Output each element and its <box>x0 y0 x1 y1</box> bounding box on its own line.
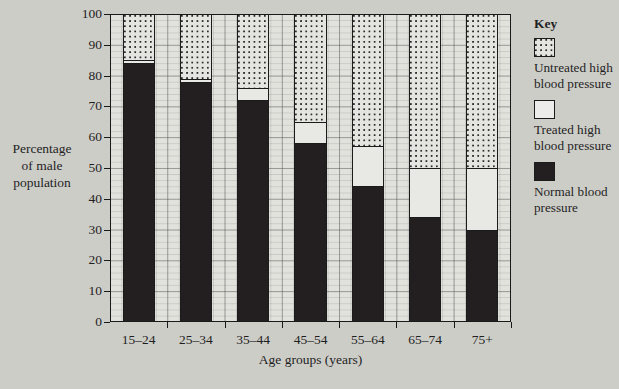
bar-65-74[interactable] <box>409 14 441 322</box>
segment-untreated <box>352 14 384 146</box>
y-tick-mark <box>104 76 110 77</box>
bar-25-34[interactable] <box>180 14 212 322</box>
y-tick-mark <box>104 14 110 15</box>
y-tick-label: 70 <box>89 98 103 114</box>
segment-treated <box>237 88 269 100</box>
y-tick-label: 10 <box>89 283 103 299</box>
segment-treated <box>294 122 326 144</box>
y-axis-title-line-3: population <box>4 174 80 191</box>
segment-normal <box>352 186 384 322</box>
white-swatch <box>534 100 555 119</box>
segment-untreated <box>294 14 326 122</box>
y-tick-label: 100 <box>82 6 102 22</box>
x-tick-label: 55–64 <box>351 332 385 348</box>
x-tick-mark <box>396 322 397 328</box>
segment-normal <box>294 143 326 322</box>
legend-items: Untreated high blood pressureTreated hig… <box>534 38 616 217</box>
stacked-bar-chart-figure: Percentage of male population 1009080706… <box>0 0 619 389</box>
y-tick-label: 60 <box>89 129 103 145</box>
x-tick-mark <box>339 322 340 328</box>
plot-area: 1009080706050403020100 15–2425–3435–4445… <box>110 14 511 322</box>
y-axis-title-line-2: of male <box>4 157 80 174</box>
segment-normal <box>409 217 441 322</box>
chart-legend: Key Untreated high blood pressureTreated… <box>534 16 616 224</box>
y-axis-title: Percentage of male population <box>4 140 80 191</box>
segment-untreated <box>237 14 269 88</box>
black-swatch <box>534 162 555 181</box>
y-tick-label: 0 <box>95 314 102 330</box>
y-tick-mark <box>104 230 110 231</box>
x-tick-label: 65–74 <box>408 332 442 348</box>
bar-35-44[interactable] <box>237 14 269 322</box>
segment-treated <box>352 146 384 186</box>
y-tick-mark <box>104 137 110 138</box>
y-tick-mark <box>104 260 110 261</box>
y-tick-label: 50 <box>89 160 103 176</box>
y-tick-mark <box>104 45 110 46</box>
x-tick-label: 35–44 <box>236 332 270 348</box>
y-tick-label: 40 <box>89 191 103 207</box>
x-tick-mark <box>225 322 226 328</box>
y-tick-label: 80 <box>89 68 103 84</box>
segment-normal <box>180 82 212 322</box>
y-tick-mark <box>104 322 110 323</box>
segment-treated <box>466 168 498 230</box>
segment-treated <box>123 60 155 63</box>
y-tick-mark <box>104 168 110 169</box>
segment-untreated <box>409 14 441 168</box>
x-tick-label: 25–34 <box>179 332 213 348</box>
y-tick-label: 30 <box>89 222 103 238</box>
legend-title: Key <box>534 16 616 33</box>
bar-45-54[interactable] <box>294 14 326 322</box>
segment-untreated <box>180 14 212 79</box>
segment-untreated <box>466 14 498 168</box>
y-tick-label: 20 <box>89 252 103 268</box>
x-axis-title: Age groups (years) <box>110 352 511 368</box>
x-tick-label: 15–24 <box>122 332 156 348</box>
y-tick-mark <box>104 199 110 200</box>
x-tick-mark <box>454 322 455 328</box>
legend-label: Untreated high blood pressure <box>534 60 616 93</box>
y-tick-label: 90 <box>89 37 103 53</box>
x-tick-mark <box>282 322 283 328</box>
x-tick-label: 45–54 <box>294 332 328 348</box>
bar-15-24[interactable] <box>123 14 155 322</box>
segment-treated <box>180 79 212 82</box>
segment-normal <box>237 100 269 322</box>
segment-treated <box>409 168 441 217</box>
y-axis-title-line-1: Percentage <box>4 140 80 157</box>
x-tick-mark <box>167 322 168 328</box>
x-tick-label: 75+ <box>472 332 493 348</box>
segment-normal <box>123 63 155 322</box>
y-tick-mark <box>104 106 110 107</box>
segment-untreated <box>123 14 155 60</box>
bar-55-64[interactable] <box>352 14 384 322</box>
legend-label: Treated high blood pressure <box>534 122 616 155</box>
bar-75plus[interactable] <box>466 14 498 322</box>
legend-label: Normal blood pressure <box>534 184 616 217</box>
dotted-swatch <box>534 38 555 57</box>
x-tick-mark <box>511 322 512 328</box>
y-tick-mark <box>104 291 110 292</box>
segment-normal <box>466 230 498 322</box>
